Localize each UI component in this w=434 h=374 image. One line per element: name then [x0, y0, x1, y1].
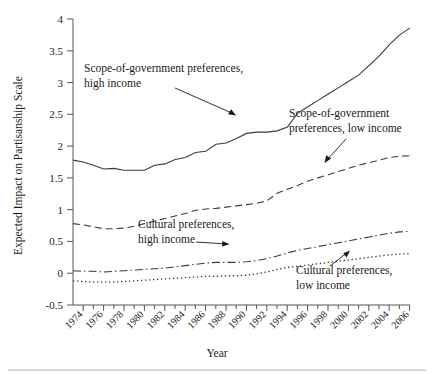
x-tick-label: 1994: [267, 309, 289, 331]
y-ticks: -0.5 0 0.5 1 1.5 2 2.5 3 3.5 4: [46, 13, 73, 311]
chart-svg: Expected Impact on Partisanship Scale -0…: [0, 0, 434, 374]
annotation-line-2: low income: [296, 279, 350, 291]
annotation-cultural-low-income: Cultural preferences, low income: [296, 250, 393, 291]
annotation-scope-low-income: Scope-of-government preferences, low inc…: [289, 107, 402, 163]
x-tick-label: 1998: [307, 309, 329, 331]
x-tick-label: 1984: [165, 309, 187, 331]
y-tick-label: 2.5: [49, 108, 63, 120]
annotation-line-1: Cultural preferences,: [138, 218, 235, 231]
annotation-line-1: Cultural preferences,: [296, 264, 393, 277]
x-tick-label: 2000: [328, 309, 350, 331]
x-tick-label: 1986: [185, 309, 207, 331]
x-tick-label: 1980: [124, 309, 146, 331]
y-axis-title: Expected Impact on Partisanship Scale: [12, 76, 25, 255]
y-tick-label: 3: [58, 77, 64, 89]
x-tick-label: 1978: [103, 309, 125, 331]
x-tick-label: 1988: [205, 309, 227, 331]
x-tick-label: 1996: [287, 309, 309, 331]
annotation-line-2: high income: [84, 77, 141, 90]
y-tick-label: 2: [58, 140, 64, 152]
annotation-arrow-line: [175, 88, 234, 114]
y-tick-label: 0: [58, 267, 64, 279]
annotation-line-1: Scope-of-government: [289, 107, 390, 120]
y-tick-label: 1.5: [49, 172, 63, 184]
x-tick-label: 1992: [246, 309, 268, 331]
x-tick-label: 2002: [348, 309, 370, 331]
y-tick-label: 4: [58, 13, 64, 25]
x-tick-label: 1990: [226, 309, 248, 331]
x-tick-label: 1976: [83, 309, 105, 331]
y-tick-label: 1: [58, 204, 64, 216]
y-tick-label: -0.5: [46, 299, 64, 311]
y-tick-label: 0.5: [49, 235, 63, 247]
annotation-line-2: preferences, low income: [289, 122, 402, 135]
annotation-line-1: Scope-of-government preferences,: [84, 62, 243, 75]
x-tick-label: 1982: [144, 309, 166, 331]
x-axis-title: Year: [206, 347, 227, 359]
y-axis-title-text: Expected Impact on Partisanship Scale: [12, 76, 25, 255]
x-tick-label: 1974: [63, 309, 85, 331]
annotation-arrowhead: [343, 250, 350, 257]
x-tick-label: 2004: [369, 309, 391, 331]
x-tick-label: 2006: [389, 309, 411, 331]
annotation-line-2: high income: [138, 233, 195, 246]
series-line-scope-of-government-low-income: [73, 156, 410, 229]
annotation-cultural-high-income: Cultural preferences, high income: [138, 218, 235, 247]
y-tick-label: 3.5: [49, 45, 63, 57]
annotation-scope-high-income: Scope-of-government preferences, high in…: [84, 62, 243, 116]
chart-figure: Expected Impact on Partisanship Scale -0…: [0, 0, 434, 374]
series-line-scope-of-government-high-income: [73, 28, 410, 170]
annotation-arrowhead: [222, 241, 230, 247]
